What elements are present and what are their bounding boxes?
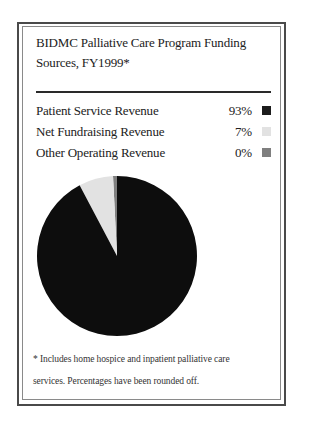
legend-label: Other Operating Revenue bbox=[36, 145, 165, 160]
legend-item-net-fundraising: Net Fundraising Revenue 7% bbox=[36, 124, 272, 145]
legend-item-patient-service: Patient Service Revenue 93% bbox=[36, 103, 272, 124]
title-divider bbox=[36, 91, 271, 93]
legend-item-other-operating: Other Operating Revenue 0% bbox=[36, 145, 272, 166]
footnote: * Includes home hospice and inpatient pa… bbox=[33, 348, 278, 392]
legend-label: Patient Service Revenue bbox=[36, 103, 158, 118]
legend-label: Net Fundraising Revenue bbox=[36, 124, 164, 139]
footnote-line2: services. Percentages have been rounded … bbox=[33, 370, 278, 392]
chart-title: BIDMC Palliative Care Program Funding So… bbox=[36, 33, 276, 73]
legend-swatch-icon bbox=[262, 148, 271, 157]
legend-swatch-icon bbox=[262, 127, 271, 136]
chart-title-line2: Sources, FY1999* bbox=[36, 53, 276, 73]
legend-value: 7% bbox=[235, 124, 252, 139]
legend-swatch-icon bbox=[262, 106, 271, 115]
chart-title-line1: BIDMC Palliative Care Program Funding bbox=[36, 33, 276, 53]
legend-value: 0% bbox=[235, 145, 252, 160]
pie-chart bbox=[36, 175, 198, 337]
footnote-line1: * Includes home hospice and inpatient pa… bbox=[33, 348, 278, 370]
legend-value: 93% bbox=[229, 103, 252, 118]
pie-slice-patient-service bbox=[37, 176, 197, 336]
legend: Patient Service Revenue 93% Net Fundrais… bbox=[36, 103, 272, 166]
